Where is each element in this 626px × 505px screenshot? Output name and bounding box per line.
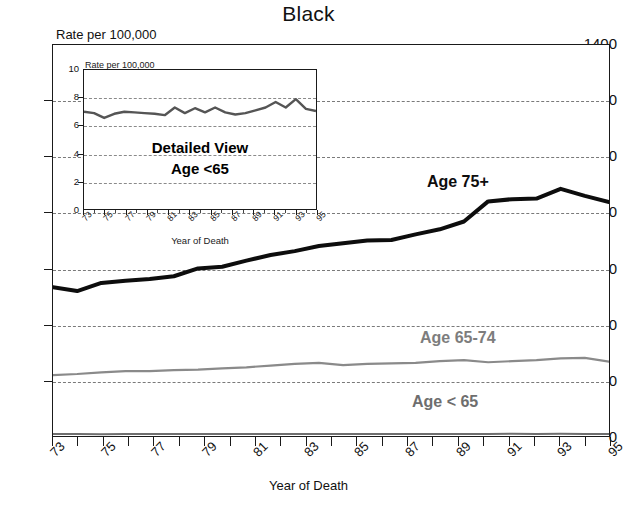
x-tick-label: 91 bbox=[504, 439, 525, 460]
inset-x-tick-mark bbox=[179, 210, 180, 213]
inset-x-tick-mark bbox=[94, 210, 95, 213]
inset-x-tick-mark bbox=[136, 210, 137, 213]
x-tick-mark bbox=[128, 437, 129, 446]
inset-series-polyline bbox=[84, 99, 316, 118]
x-tick-mark bbox=[331, 437, 332, 446]
y-tick-mark bbox=[44, 269, 52, 270]
x-tick-label: 85 bbox=[351, 439, 372, 460]
inset-y-tick-mark bbox=[78, 182, 83, 183]
x-tick-label: 79 bbox=[199, 439, 220, 460]
x-tick-mark bbox=[585, 437, 586, 446]
inset-x-tick-mark bbox=[285, 210, 286, 213]
inset-x-tick-mark bbox=[306, 210, 307, 213]
inset-y-tick-mark bbox=[78, 97, 83, 98]
inset-y-tick-label: 2 bbox=[57, 176, 79, 187]
inset-y-tick-label: 6 bbox=[57, 119, 79, 130]
y-tick-mark bbox=[44, 156, 52, 157]
y-tick-mark bbox=[44, 381, 52, 382]
inset-y-tick-mark bbox=[78, 125, 83, 126]
inset-x-tick-mark bbox=[221, 210, 222, 213]
x-tick-label: 77 bbox=[148, 439, 169, 460]
x-tick-mark bbox=[230, 437, 231, 446]
x-tick-label: 89 bbox=[453, 439, 474, 460]
x-tick-label: 73 bbox=[47, 439, 68, 460]
inset-x-tick-mark bbox=[157, 210, 158, 213]
inset-y-tick-label: 8 bbox=[57, 91, 79, 102]
x-tick-label: 81 bbox=[250, 439, 271, 460]
series-label-age-65-74: Age 65-74 bbox=[420, 329, 496, 347]
y-tick-mark bbox=[44, 325, 52, 326]
page-title: Black bbox=[0, 2, 617, 26]
inset-x-tick-mark bbox=[243, 210, 244, 213]
x-tick-label: 83 bbox=[301, 439, 322, 460]
x-axis-title: Year of Death bbox=[0, 478, 617, 493]
y-axis-title: Rate per 100,000 bbox=[56, 27, 156, 42]
x-tick-mark bbox=[280, 437, 281, 446]
inset-caption-line-1: Detailed View bbox=[83, 139, 317, 156]
x-tick-mark bbox=[77, 437, 78, 446]
x-tick-mark bbox=[483, 437, 484, 446]
inset-y-tick-label: 4 bbox=[57, 148, 79, 159]
inset-y-tick-label: 0 bbox=[57, 204, 79, 215]
x-tick-label: 75 bbox=[98, 439, 119, 460]
x-tick-label: 87 bbox=[402, 439, 423, 460]
y-tick-mark bbox=[44, 100, 52, 101]
inset-x-tick-mark bbox=[115, 210, 116, 213]
inset-y-tick-label: 10 bbox=[57, 63, 79, 74]
x-tick-mark bbox=[432, 437, 433, 446]
x-tick-mark bbox=[179, 437, 180, 446]
inset-x-axis-title: Year of Death bbox=[83, 235, 317, 246]
y-tick-mark bbox=[44, 212, 52, 213]
inset-caption-line-2: Age <65 bbox=[83, 160, 317, 177]
x-tick-mark bbox=[382, 437, 383, 446]
series-label-age-75-plus: Age 75+ bbox=[427, 173, 489, 191]
inset-x-tick-mark bbox=[264, 210, 265, 213]
series-line bbox=[53, 358, 609, 375]
inset-x-tick-mark bbox=[200, 210, 201, 213]
x-tick-mark bbox=[534, 437, 535, 446]
series-label-age-under-65: Age < 65 bbox=[412, 393, 478, 411]
